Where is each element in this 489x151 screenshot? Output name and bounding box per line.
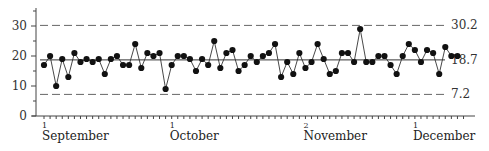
data-point-marker <box>442 44 448 50</box>
data-point-marker <box>150 53 156 59</box>
data-point-marker <box>138 65 144 71</box>
data-point-marker <box>193 68 199 74</box>
axis-labels: 01020301September1October2November1Decem… <box>12 19 476 143</box>
data-point-marker <box>412 47 418 53</box>
data-point-marker <box>59 56 65 62</box>
data-point-marker <box>321 56 327 62</box>
y-tick-label: 0 <box>19 109 27 123</box>
data-point-marker <box>102 71 108 77</box>
data-point-marker <box>302 65 308 71</box>
data-point-marker <box>406 41 412 47</box>
data-point-marker <box>169 62 175 68</box>
data-point-marker <box>369 59 375 65</box>
data-point-marker <box>242 62 248 68</box>
data-point-marker <box>278 74 284 80</box>
data-point-marker <box>296 50 302 56</box>
data-point-marker <box>53 83 59 89</box>
data-point-marker <box>229 47 235 53</box>
data-point-marker <box>108 56 114 62</box>
y-tick-label: 10 <box>12 79 27 93</box>
data-point-marker <box>284 59 290 65</box>
upper-control-limit-label: 30.2 <box>451 18 478 32</box>
x-month-label: September <box>42 129 109 143</box>
data-point-marker <box>217 65 223 71</box>
data-point-marker <box>424 47 430 53</box>
axes <box>31 8 475 119</box>
data-point-marker <box>90 59 96 65</box>
data-point-marker <box>333 68 339 74</box>
data-point-marker <box>83 56 89 62</box>
data-point-marker <box>65 74 71 80</box>
data-point-marker <box>120 62 126 68</box>
data-point-marker <box>315 41 321 47</box>
data-point-marker <box>345 50 351 56</box>
data-point-marker <box>266 50 272 56</box>
data-point-marker <box>77 59 83 65</box>
data-point-marker <box>41 62 47 68</box>
data-point-marker <box>175 53 181 59</box>
data-point-marker <box>381 53 387 59</box>
data-point-marker <box>375 53 381 59</box>
data-point-marker <box>211 38 217 44</box>
data-series <box>41 26 461 92</box>
data-point-marker <box>235 68 241 74</box>
data-point-marker <box>156 50 162 56</box>
data-point-marker <box>272 41 278 47</box>
data-point-marker <box>223 50 229 56</box>
lower-control-limit-label: 7.2 <box>451 87 470 101</box>
data-point-marker <box>114 53 120 59</box>
data-point-marker <box>254 59 260 65</box>
data-point-marker <box>181 53 187 59</box>
data-point-marker <box>96 56 102 62</box>
data-point-marker <box>260 53 266 59</box>
data-point-marker <box>308 59 314 65</box>
data-point-marker <box>357 26 363 32</box>
data-point-marker <box>144 50 150 56</box>
data-point-marker <box>454 53 460 59</box>
data-point-marker <box>448 53 454 59</box>
data-point-marker <box>132 41 138 47</box>
data-point-marker <box>290 71 296 77</box>
y-tick-label: 20 <box>12 49 27 63</box>
x-month-label: November <box>303 129 367 143</box>
data-point-marker <box>339 50 345 56</box>
data-point-marker <box>126 62 132 68</box>
data-point-marker <box>187 56 193 62</box>
data-point-marker <box>199 56 205 62</box>
data-point-marker <box>436 71 442 77</box>
data-point-marker <box>400 53 406 59</box>
data-point-marker <box>394 71 400 77</box>
data-point-marker <box>248 53 254 59</box>
data-point-marker <box>418 59 424 65</box>
x-month-label: October <box>170 129 219 143</box>
data-point-marker <box>363 59 369 65</box>
y-tick-label: 30 <box>12 19 27 33</box>
data-point-marker <box>163 86 169 92</box>
data-point-marker <box>387 62 393 68</box>
data-point-marker <box>351 59 357 65</box>
data-point-marker <box>430 50 436 56</box>
data-point-marker <box>71 50 77 56</box>
data-point-marker <box>205 62 211 68</box>
data-point-marker <box>327 71 333 77</box>
x-month-label: December <box>413 129 476 143</box>
control-chart: 30.218.77.2 01020301September1October2No… <box>0 0 489 151</box>
data-point-marker <box>47 53 53 59</box>
